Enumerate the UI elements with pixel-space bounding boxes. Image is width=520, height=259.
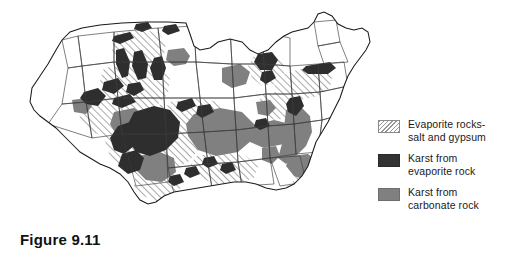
legend-item-karst-evaporite: Karst from evaporite rock bbox=[378, 152, 486, 177]
gray-fill-swatch bbox=[378, 188, 400, 201]
dark-fill-swatch bbox=[378, 154, 400, 167]
legend-label-karst-carbonate: Karst from carbonate rock bbox=[408, 186, 479, 211]
legend-label-karst-evaporite: Karst from evaporite rock bbox=[408, 152, 475, 177]
figure-container: Evaporite rocks- salt and gypsum Karst f… bbox=[0, 0, 520, 259]
map-legend: Evaporite rocks- salt and gypsum Karst f… bbox=[378, 118, 486, 220]
hatch-pattern-swatch bbox=[378, 120, 400, 133]
us-karst-map bbox=[18, 6, 378, 216]
legend-item-evaporite-rocks: Evaporite rocks- salt and gypsum bbox=[378, 118, 486, 143]
figure-caption: Figure 9.11 bbox=[20, 231, 101, 248]
legend-item-karst-carbonate: Karst from carbonate rock bbox=[378, 186, 486, 211]
map-graphic bbox=[18, 6, 378, 216]
legend-label-evaporite-rocks: Evaporite rocks- salt and gypsum bbox=[408, 118, 486, 143]
